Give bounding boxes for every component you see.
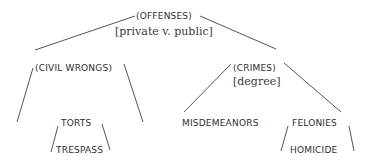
edge-crimes-misdemeanors (184, 64, 231, 112)
criterion-degree: [degree] (233, 75, 280, 88)
node-misdemeanors: MISDEMEANORS (182, 118, 259, 129)
criterion-private-v-public: [private v. public] (115, 25, 213, 38)
taxonomy-tree-diagram: (OFFENSES) [private v. public] (CIVIL WR… (0, 0, 369, 168)
edge-torts-right (102, 124, 110, 150)
node-crimes: (CRIMES) (233, 63, 276, 74)
edge-crimes-felonies (284, 63, 341, 112)
node-trespass: TRESPASS (56, 145, 103, 156)
edge-civil-wrongs-left (17, 68, 33, 122)
edge-felonies-left (281, 126, 288, 151)
node-offenses: (OFFENSES) (136, 11, 192, 22)
node-civil-wrongs: (CIVIL WRONGS) (35, 63, 112, 74)
node-homicide: HOMICIDE (290, 145, 337, 156)
edge-felonies-right (349, 126, 354, 151)
node-felonies: FELONIES (292, 118, 337, 129)
edge-civil-wrongs-right (124, 64, 143, 122)
node-torts: TORTS (61, 118, 91, 129)
